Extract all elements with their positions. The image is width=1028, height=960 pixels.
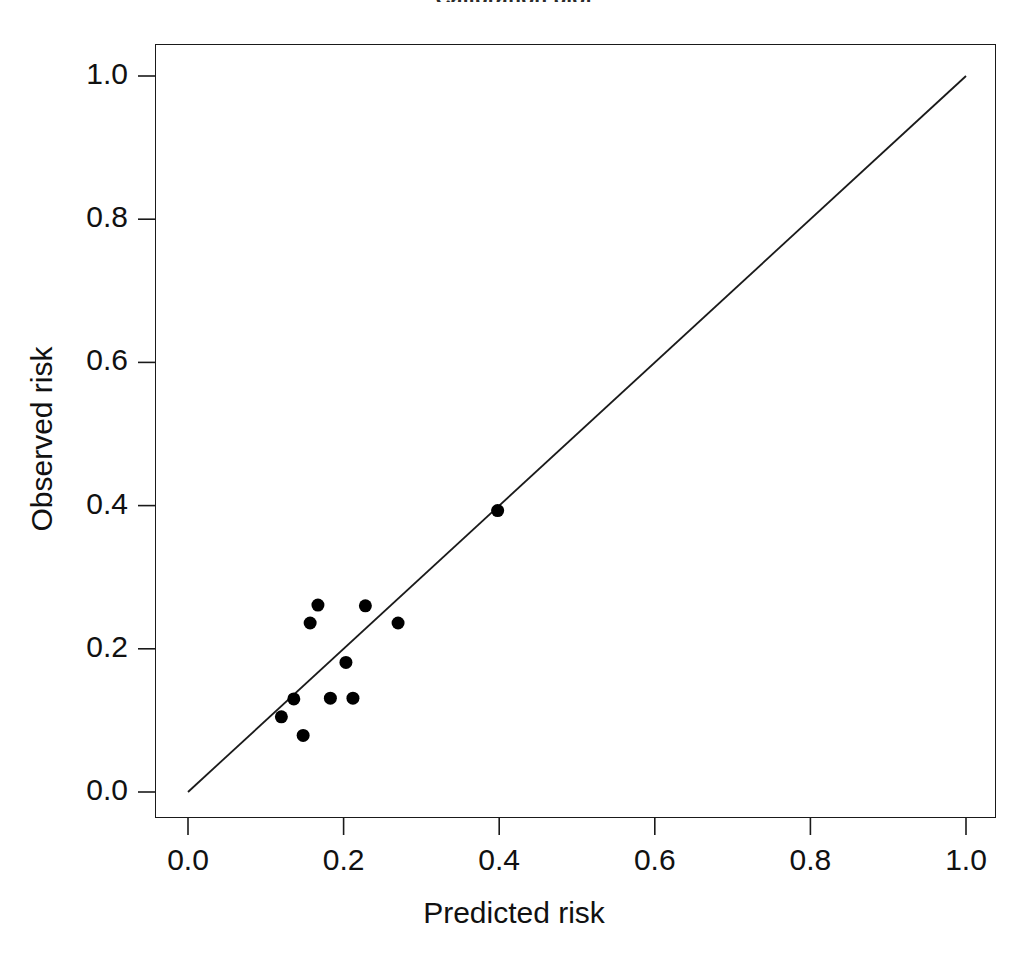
figure-title: Calibration plot (0, 0, 1028, 2)
calibration-plot-figure: Calibration plot 0.00.20.40.60.81.0 0.00… (0, 0, 1028, 960)
x-tick-label: 0.4 (454, 843, 544, 877)
y-tick-label: 0.0 (42, 773, 128, 807)
y-tick-label: 1.0 (42, 57, 128, 91)
x-axis-title: Predicted risk (0, 896, 1028, 930)
x-tick-label: 0.6 (610, 843, 700, 877)
x-tick-label: 1.0 (921, 843, 1011, 877)
y-tick-label: 0.8 (42, 200, 128, 234)
y-axis-title: Observed risk (25, 289, 59, 589)
x-tick-label: 0.0 (143, 843, 233, 877)
y-tick-label: 0.2 (42, 630, 128, 664)
x-tick-label: 0.2 (299, 843, 389, 877)
x-tick-label: 0.8 (765, 843, 855, 877)
plot-area-border (155, 44, 996, 818)
